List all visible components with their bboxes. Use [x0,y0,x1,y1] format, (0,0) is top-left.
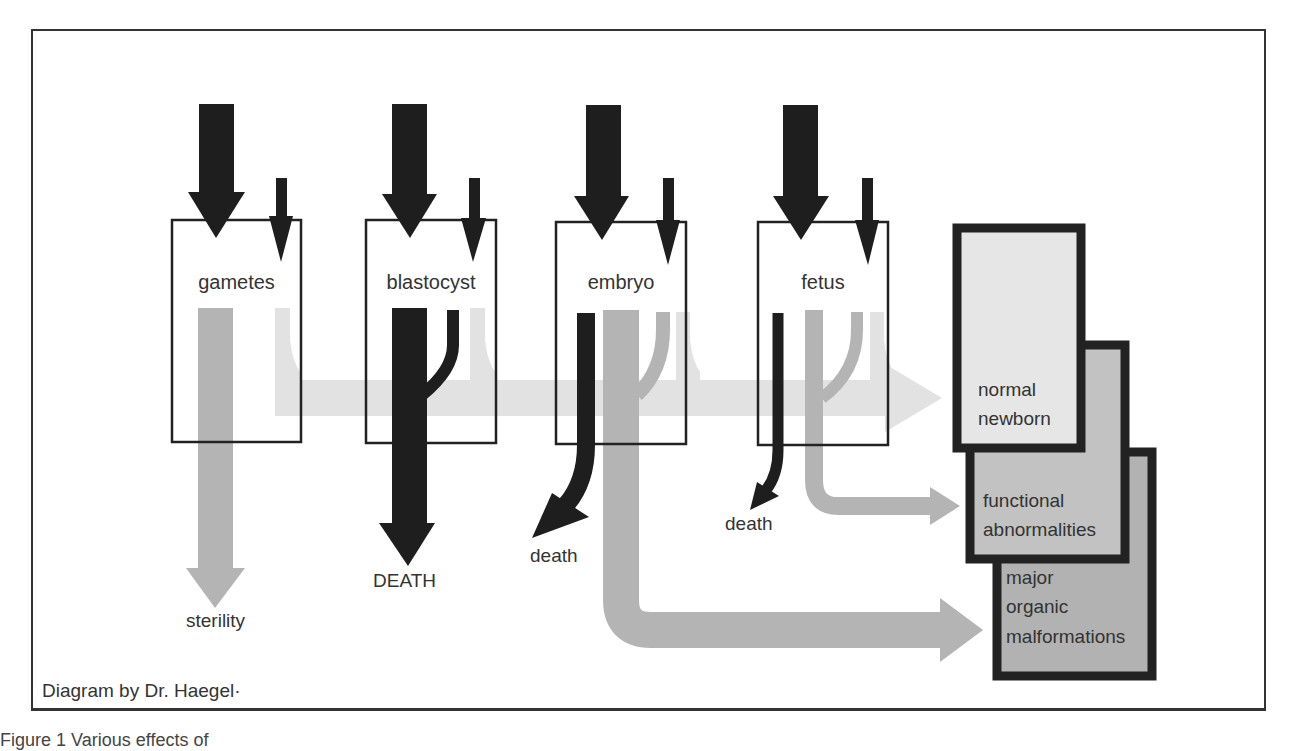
major-line1: major [1006,563,1125,592]
functional-line2: abnormalities [983,515,1096,544]
diagram-credit: Diagram by Dr. Haegel· [42,680,241,702]
outcome-label-normal: normal newborn [978,375,1051,434]
normal-line1: normal [978,375,1051,404]
sterility-label: sterility [186,610,245,633]
input-arrows [188,104,879,265]
stage-label-gametes: gametes [172,271,301,294]
outcome-label-functional: functional abnormalities [983,486,1096,545]
functional-line1: functional [983,486,1096,515]
normal-line2: newborn [978,404,1051,433]
stage-label-embryo: embryo [556,271,686,294]
stage-label-blastocyst: blastocyst [366,271,496,294]
outcome-label-major: major organic malformations [1006,563,1125,651]
death-arrow-blastocyst [379,308,453,566]
stage-label-fetus: fetus [758,271,888,294]
sterility-arrow [186,308,245,608]
figure-caption: Figure 1 Various effects of [0,730,208,751]
major-line3: malformations [1006,622,1125,651]
major-line2: organic [1006,592,1125,621]
major-malformations-arrowhead [940,598,983,662]
functional-arrowhead [930,487,960,525]
death-label-embryo: death [530,545,578,568]
death-label-fetus: death [725,513,773,536]
death-arrow-embryo [532,313,589,538]
death-label-blastocyst: DEATH [373,570,436,593]
